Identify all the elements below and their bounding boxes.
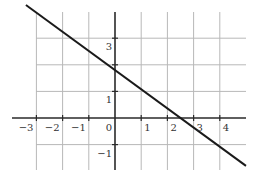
x-tick-label: 3 — [197, 122, 203, 133]
data-line — [26, 5, 246, 166]
x-tick-label: −1 — [71, 122, 86, 133]
line-graph: −3−2−101234−113 — [0, 0, 259, 177]
data-series — [26, 5, 246, 166]
x-tick-label: −2 — [45, 122, 60, 133]
y-tick-label: 3 — [106, 41, 112, 52]
x-tick-label: 0 — [106, 122, 112, 133]
x-tick-label: 4 — [223, 122, 229, 133]
x-tick-label: 2 — [170, 122, 176, 133]
x-tick-label: 1 — [144, 122, 150, 133]
y-tick-label: 1 — [106, 94, 112, 105]
y-tick-label: −1 — [97, 148, 112, 159]
x-tick-label: −3 — [19, 122, 34, 133]
tick-labels: −3−2−101234−113 — [19, 41, 230, 158]
